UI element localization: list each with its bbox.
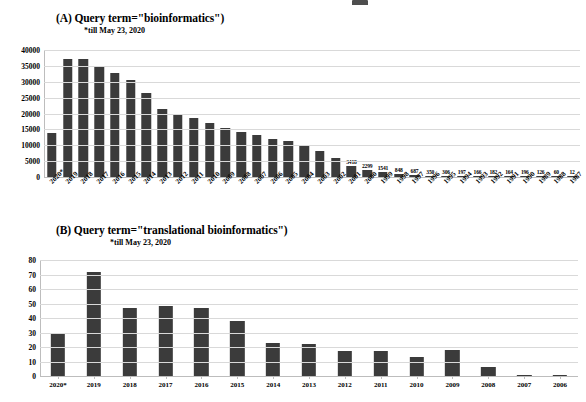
- x-tick-label: 2007: [517, 381, 531, 389]
- bar: [79, 59, 88, 177]
- bar: [481, 367, 495, 376]
- x-tick-mark: [178, 177, 179, 180]
- x-tick-mark: [162, 177, 163, 180]
- x-tick-mark: [556, 177, 557, 180]
- x-tick-mark: [524, 376, 525, 379]
- x-tick-mark: [52, 177, 53, 180]
- y-tick-label: 40000: [0, 46, 40, 55]
- x-tick-label: 2012: [338, 381, 352, 389]
- x-tick-mark: [225, 177, 226, 180]
- y-tick-label: 30000: [0, 77, 40, 86]
- bar: [87, 272, 101, 376]
- x-tick-mark: [146, 177, 147, 180]
- y-tick-label: 70: [0, 270, 36, 279]
- x-tick-label: 2013: [302, 381, 316, 389]
- x-tick-mark: [320, 177, 321, 180]
- y-tick-label: 25000: [0, 93, 40, 102]
- bar: [51, 333, 65, 377]
- bar: [47, 133, 56, 177]
- x-tick-mark: [478, 177, 479, 180]
- x-tick-mark: [452, 376, 453, 379]
- x-tick-mark: [462, 177, 463, 180]
- x-tick-mark: [237, 376, 238, 379]
- panel-a: (A) Query term="bioinformatics") *till M…: [0, 0, 586, 218]
- gridline: [40, 333, 578, 334]
- x-tick-mark: [351, 177, 352, 180]
- x-tick-mark: [166, 376, 167, 379]
- bar: [189, 118, 198, 177]
- y-tick-label: 30: [0, 328, 36, 337]
- gridline: [44, 66, 580, 67]
- bar: [445, 350, 459, 376]
- x-tick-mark: [130, 376, 131, 379]
- bar: [236, 132, 245, 177]
- x-tick-label: 2014: [266, 381, 280, 389]
- y-tick-label: 15000: [0, 125, 40, 134]
- gridline: [40, 289, 578, 290]
- x-tick-mark: [493, 177, 494, 180]
- x-tick-mark: [525, 177, 526, 180]
- x-tick-label: 2011: [374, 381, 388, 389]
- gridline: [40, 304, 578, 305]
- x-tick-mark: [560, 376, 561, 379]
- x-tick-label: 2017: [159, 381, 173, 389]
- x-tick-label: 2015: [230, 381, 244, 389]
- panel-b-subtitle: *till May 23, 2020: [110, 238, 171, 247]
- x-tick-mark: [257, 177, 258, 180]
- y-tick-label: 0: [0, 173, 40, 182]
- x-tick-mark: [131, 177, 132, 180]
- gridline: [44, 161, 580, 162]
- x-tick-mark: [414, 177, 415, 180]
- x-tick-mark: [99, 177, 100, 180]
- panel-b: (B) Query term="translational bioinforma…: [0, 218, 586, 402]
- x-tick-mark: [541, 177, 542, 180]
- x-tick-mark: [194, 177, 195, 180]
- y-tick-label: 20: [0, 343, 36, 352]
- bar: [409, 357, 423, 376]
- y-tick-label: 40: [0, 314, 36, 323]
- x-tick-label: 2006: [553, 381, 567, 389]
- x-tick-mark: [94, 376, 95, 379]
- y-tick-label: 35000: [0, 61, 40, 70]
- y-tick-label: 10000: [0, 141, 40, 150]
- x-tick-mark: [367, 177, 368, 180]
- x-tick-mark: [399, 177, 400, 180]
- x-tick-mark: [83, 177, 84, 180]
- x-tick-mark: [115, 177, 116, 180]
- y-tick-label: 50: [0, 299, 36, 308]
- x-tick-mark: [509, 177, 510, 180]
- gridline: [44, 98, 580, 99]
- gridline: [44, 114, 580, 115]
- x-tick-label: 2016: [194, 381, 208, 389]
- y-tick-label: 0: [0, 372, 36, 381]
- bar-value-label: 1541: [378, 165, 388, 171]
- panel-a-title: (A) Query term="bioinformatics"): [56, 12, 224, 24]
- gridline: [40, 347, 578, 348]
- y-tick-label: 20000: [0, 109, 40, 118]
- x-tick-mark: [383, 177, 384, 180]
- bar: [142, 93, 151, 177]
- x-tick-mark: [345, 376, 346, 379]
- gridline: [44, 129, 580, 130]
- bar: [205, 123, 214, 177]
- gridline: [40, 260, 578, 261]
- x-tick-mark: [201, 376, 202, 379]
- x-tick-mark: [381, 376, 382, 379]
- panel-a-subtitle: *till May 23, 2020: [84, 26, 145, 35]
- y-tick-label: 60: [0, 285, 36, 294]
- x-tick-mark: [288, 177, 289, 180]
- x-tick-mark: [210, 177, 211, 180]
- gridline: [44, 145, 580, 146]
- x-tick-mark: [241, 177, 242, 180]
- x-tick-mark: [488, 376, 489, 379]
- bar: [158, 306, 172, 376]
- bar: [63, 59, 72, 177]
- panel-b-title: (B) Query term="translational bioinforma…: [56, 224, 288, 236]
- bar: [338, 351, 352, 376]
- x-tick-label: 2010: [410, 381, 424, 389]
- bar: [221, 128, 230, 177]
- y-tick-label: 10: [0, 357, 36, 366]
- bar: [302, 344, 316, 376]
- x-tick-mark: [68, 177, 69, 180]
- panel-a-plot-area: 3418229915418486873503061971661821641961…: [44, 50, 580, 177]
